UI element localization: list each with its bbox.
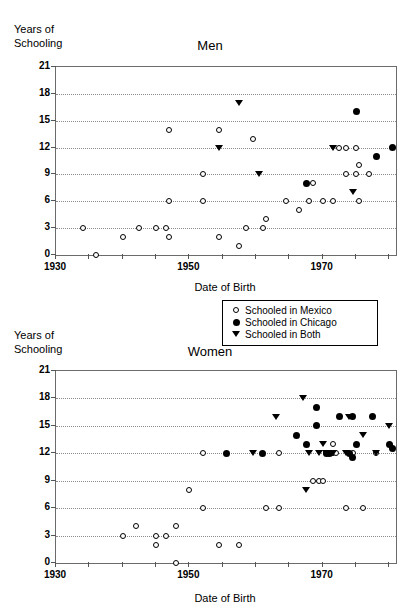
data-point-open-circle (310, 180, 316, 186)
y-tick-mark (51, 200, 56, 201)
y-tick-label: 9 (24, 474, 50, 485)
y-tick-label: 18 (24, 87, 50, 98)
data-point-down-triangle (305, 450, 313, 456)
data-point-open-circle (353, 145, 359, 151)
y-tick-mark (51, 452, 56, 453)
data-point-open-circle (236, 542, 242, 548)
data-point-open-circle (330, 441, 336, 447)
data-point-down-triangle (302, 487, 310, 493)
data-point-filled-circle (313, 404, 320, 411)
data-point-open-circle (200, 505, 206, 511)
data-point-down-triangle (329, 450, 337, 456)
data-point-open-circle (320, 478, 326, 484)
data-point-filled-circle (353, 441, 360, 448)
data-point-filled-circle (389, 144, 396, 151)
data-point-open-circle (356, 162, 362, 168)
data-point-open-circle (330, 198, 336, 204)
data-point-down-triangle (349, 189, 357, 195)
x-tick-mark (122, 254, 123, 259)
y-tick-label: 21 (24, 60, 50, 71)
data-point-filled-circle (293, 432, 300, 439)
y-tick-label: 0 (24, 248, 50, 259)
data-point-down-triangle (359, 432, 367, 438)
y-tick-mark (51, 370, 56, 371)
data-point-open-circle (163, 533, 169, 539)
x-tick-label: 1930 (35, 569, 75, 580)
y-axis-title-women: Years of Schooling (14, 328, 62, 356)
gridline-y (56, 228, 396, 229)
y-tick-label: 18 (24, 391, 50, 402)
x-tick-label: 1930 (35, 261, 75, 272)
data-point-open-circle (153, 542, 159, 548)
chart-title-men: Men (150, 38, 270, 53)
gridline-y (56, 398, 396, 399)
data-point-down-triangle (372, 450, 380, 456)
x-tick-mark (88, 562, 89, 567)
data-point-open-circle (250, 136, 256, 142)
x-tick-mark (188, 254, 189, 259)
x-tick-mark (55, 562, 56, 567)
data-point-open-circle (236, 243, 242, 249)
x-tick-mark (322, 254, 323, 259)
data-point-down-triangle (345, 414, 353, 420)
gridline-y (56, 94, 396, 95)
data-point-down-triangle (329, 145, 337, 151)
x-axis-title-women: Date of Birth (155, 592, 295, 604)
y-tick-label: 0 (24, 556, 50, 567)
y-tick-mark (51, 425, 56, 426)
data-point-open-circle (186, 487, 192, 493)
y-tick-mark (51, 173, 56, 174)
men-chart-panel: Years of Schooling Men Date of Birth 036… (0, 0, 418, 300)
data-point-open-circle (343, 171, 349, 177)
data-point-open-circle (136, 225, 142, 231)
y-tick-label: 21 (24, 364, 50, 375)
gridline-y (56, 536, 396, 537)
data-point-open-circle (296, 207, 302, 213)
data-point-down-triangle (319, 441, 327, 447)
x-tick-label: 1950 (168, 569, 208, 580)
x-tick-mark (388, 562, 389, 567)
y-tick-label: 3 (24, 221, 50, 232)
data-point-filled-circle (373, 153, 380, 160)
data-point-filled-circle (369, 413, 376, 420)
x-tick-label: 1970 (302, 569, 342, 580)
x-tick-mark (255, 562, 256, 567)
y-tick-label: 15 (24, 114, 50, 125)
x-tick-mark (88, 254, 89, 259)
data-point-open-circle (163, 225, 169, 231)
chart-title-women: Women (150, 344, 270, 359)
data-point-open-circle (173, 560, 179, 566)
data-point-open-circle (366, 171, 372, 177)
y-tick-mark (51, 120, 56, 121)
data-point-filled-circle (303, 441, 310, 448)
data-point-open-circle (306, 198, 312, 204)
y-tick-label: 3 (24, 529, 50, 540)
data-point-open-circle (200, 450, 206, 456)
data-point-open-circle (93, 252, 99, 258)
x-tick-mark (122, 562, 123, 567)
data-point-open-circle (260, 225, 266, 231)
x-tick-label: 1950 (168, 261, 208, 272)
data-point-down-triangle (255, 171, 263, 177)
data-point-filled-circle (259, 450, 266, 457)
y-tick-mark (51, 507, 56, 508)
plot-area-women (55, 370, 397, 564)
data-point-open-circle (283, 198, 289, 204)
data-point-down-triangle (272, 414, 280, 420)
data-point-filled-circle (223, 450, 230, 457)
data-point-open-circle (120, 533, 126, 539)
x-tick-mark (155, 562, 156, 567)
data-point-down-triangle (249, 450, 257, 456)
data-point-open-circle (343, 145, 349, 151)
data-point-open-circle (120, 234, 126, 240)
x-tick-mark (288, 562, 289, 567)
data-point-open-circle (360, 505, 366, 511)
plot-area-men (55, 66, 397, 256)
data-point-open-circle (263, 216, 269, 222)
y-tick-label: 12 (24, 141, 50, 152)
data-point-open-circle (166, 198, 172, 204)
data-point-down-triangle (235, 100, 243, 106)
gridline-y (56, 481, 396, 482)
y-tick-label: 15 (24, 419, 50, 430)
data-point-down-triangle (385, 423, 393, 429)
